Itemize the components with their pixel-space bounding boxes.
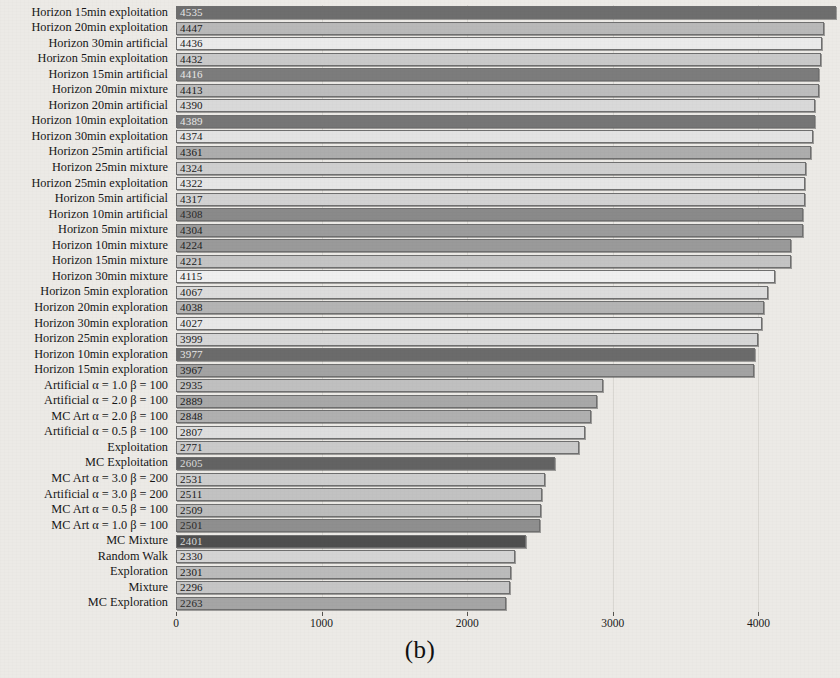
bar-row: 2301 <box>176 565 840 581</box>
bar-value-label: 4416 <box>180 68 203 81</box>
bar-value-label: 4374 <box>180 130 203 143</box>
bar-value-label: 4447 <box>180 22 203 35</box>
category-label: Artificial α = 2.0 β = 100 <box>0 393 168 408</box>
bar-value-label: 4027 <box>180 317 203 330</box>
bar-value-label: 4535 <box>180 6 203 19</box>
bar-value-label: 4317 <box>180 193 203 206</box>
bar <box>176 22 824 35</box>
bar-value-label: 4304 <box>180 224 203 237</box>
category-label: Artificial α = 1.0 β = 100 <box>0 378 168 393</box>
bar <box>176 146 811 159</box>
x-tick-3000 <box>613 612 614 616</box>
x-tick-2000 <box>467 612 468 616</box>
bar-value-label: 4221 <box>180 255 203 268</box>
category-label: MC Art α = 3.0 β = 200 <box>0 471 168 486</box>
bar-value-label: 4038 <box>180 301 203 314</box>
bar-row: 2889 <box>176 394 840 410</box>
bar-value-label: 2509 <box>180 504 203 517</box>
bar-row: 4361 <box>176 145 840 161</box>
bar-row: 3977 <box>176 347 840 363</box>
bar <box>176 550 515 563</box>
category-label: Horizon 5min artificial <box>0 191 168 206</box>
category-label: Horizon 30min artificial <box>0 36 168 51</box>
category-label: Horizon 25min artificial <box>0 144 168 159</box>
category-label: Horizon 25min mixture <box>0 160 168 175</box>
bar <box>176 208 803 221</box>
bar-value-label: 4067 <box>180 286 203 299</box>
bar-row: 4304 <box>176 223 840 239</box>
category-label: Horizon 5min exploitation <box>0 51 168 66</box>
bar-chart-figure: Horizon 15min exploitationHorizon 20min … <box>0 0 840 678</box>
bar-row: 4221 <box>176 254 840 270</box>
bar <box>176 6 836 19</box>
bar-row: 2771 <box>176 440 840 456</box>
figure-caption-text: (b) <box>405 636 436 663</box>
bar-value-label: 4115 <box>180 270 202 283</box>
bar-row: 4322 <box>176 176 840 192</box>
bar-value-label: 2511 <box>180 488 202 501</box>
x-tick-4000 <box>758 612 759 616</box>
category-label: Horizon 10min artificial <box>0 207 168 222</box>
bar <box>176 364 754 377</box>
category-label: Horizon 15min exploitation <box>0 5 168 20</box>
bar-row: 2807 <box>176 425 840 441</box>
bar <box>176 395 597 408</box>
category-label: Horizon 30min exploitation <box>0 129 168 144</box>
category-label: Horizon 25min exploitation <box>0 176 168 191</box>
bar-row: 4115 <box>176 269 840 285</box>
bar <box>176 348 755 361</box>
bar <box>176 457 555 470</box>
bar-value-label: 4361 <box>180 146 203 159</box>
bar-value-label: 2771 <box>180 441 203 454</box>
bar-value-label: 2935 <box>180 379 203 392</box>
bar-row: 4374 <box>176 129 840 145</box>
bar-row: 4067 <box>176 285 840 301</box>
bar-row: 2296 <box>176 580 840 596</box>
bar <box>176 426 585 439</box>
category-label: MC Art α = 0.5 β = 100 <box>0 502 168 517</box>
bar-value-label: 4389 <box>180 115 203 128</box>
bar-value-label: 4390 <box>180 99 203 112</box>
category-label: Horizon 15min mixture <box>0 253 168 268</box>
category-label: Horizon 20min mixture <box>0 82 168 97</box>
x-axis: 01000200030004000 <box>176 612 840 638</box>
x-tick-1000 <box>322 612 323 616</box>
bar <box>176 99 815 112</box>
bar-row: 2401 <box>176 534 840 550</box>
x-tick-label: 3000 <box>601 617 624 629</box>
bar-value-label: 3967 <box>180 364 203 377</box>
plot-area: 4535444744364432441644134390438943744361… <box>176 5 840 612</box>
bar-row: 4535 <box>176 5 840 21</box>
bar <box>176 333 758 346</box>
bar <box>176 473 545 486</box>
bar <box>176 286 768 299</box>
bar <box>176 270 775 283</box>
bar-row: 4389 <box>176 114 840 130</box>
category-label: Horizon 30min exploration <box>0 316 168 331</box>
category-label: Horizon 15min exploration <box>0 362 168 377</box>
bar-value-label: 4436 <box>180 37 203 50</box>
bar <box>176 177 805 190</box>
category-label: Artificial α = 0.5 β = 100 <box>0 424 168 439</box>
bar <box>176 130 813 143</box>
bar-row: 4413 <box>176 83 840 99</box>
category-label: Horizon 10min exploitation <box>0 113 168 128</box>
bar-value-label: 2889 <box>180 395 203 408</box>
bar-value-label: 4413 <box>180 84 203 97</box>
bar <box>176 115 815 128</box>
bar-value-label: 4322 <box>180 177 203 190</box>
bar-value-label: 2605 <box>180 457 203 470</box>
bar <box>176 488 542 501</box>
bar-row: 4324 <box>176 161 840 177</box>
category-label: MC Exploitation <box>0 455 168 470</box>
category-label: Horizon 25min exploration <box>0 331 168 346</box>
category-label: Horizon 5min mixture <box>0 222 168 237</box>
category-label: Horizon 20min exploitation <box>0 20 168 35</box>
bar <box>176 162 806 175</box>
bar-row: 4447 <box>176 21 840 37</box>
figure-caption: (b) <box>0 636 840 664</box>
category-label: MC Mixture <box>0 533 168 548</box>
category-label: MC Exploration <box>0 595 168 610</box>
bar-row: 2531 <box>176 472 840 488</box>
bar-row: 4432 <box>176 52 840 68</box>
